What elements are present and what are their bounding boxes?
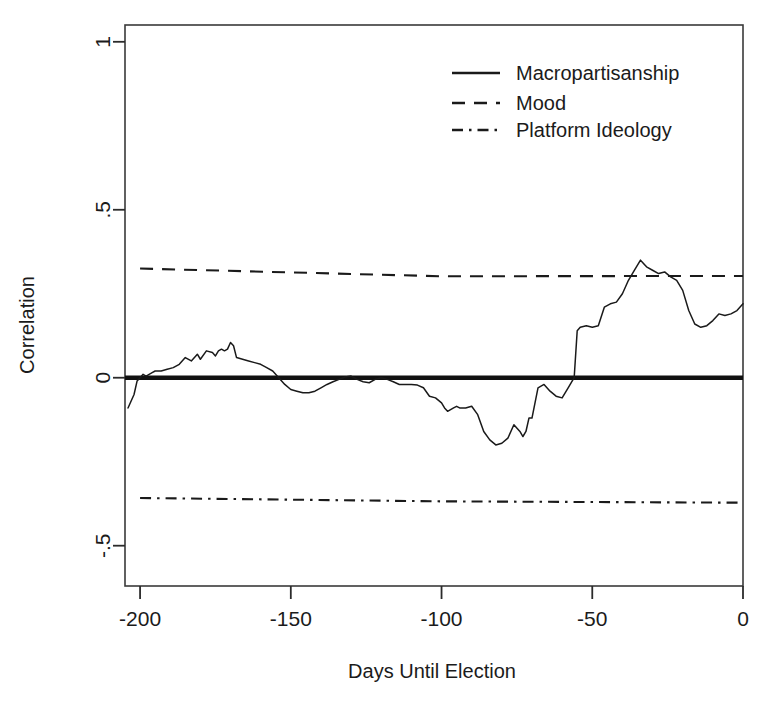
correlation-line-chart: 1.50-.5 -200-150-100-500 Macropartisansh… — [0, 0, 768, 713]
y-tick-label: 1 — [92, 36, 115, 48]
y-tick-label: .5 — [92, 201, 115, 219]
x-tick-label: 0 — [737, 607, 749, 630]
legend-label-platform-ideology: Platform Ideology — [516, 119, 672, 141]
x-tick-label: -50 — [577, 607, 607, 630]
x-axis-label: Days Until Election — [348, 660, 516, 682]
legend-label-mood: Mood — [516, 92, 566, 114]
data-series-group — [128, 260, 743, 503]
chart-legend: MacropartisanshipMoodPlatform Ideology — [452, 62, 679, 141]
x-axis-ticks: -200-150-100-500 — [119, 586, 749, 630]
y-tick-label: -.5 — [92, 533, 115, 558]
x-tick-label: -200 — [119, 607, 161, 630]
x-tick-label: -100 — [421, 607, 463, 630]
y-tick-label: 0 — [92, 372, 115, 384]
series-line-macropartisanship — [128, 260, 743, 445]
chart-page: 1.50-.5 -200-150-100-500 Macropartisansh… — [0, 0, 768, 713]
series-line-platform-ideology — [140, 498, 743, 503]
legend-label-macropartisanship: Macropartisanship — [516, 62, 679, 84]
y-axis-label: Correlation — [16, 276, 38, 374]
x-tick-label: -150 — [270, 607, 312, 630]
y-axis-ticks: 1.50-.5 — [92, 36, 126, 558]
